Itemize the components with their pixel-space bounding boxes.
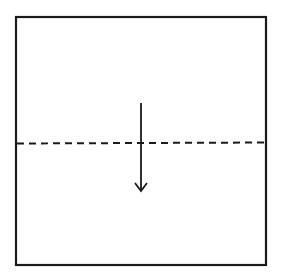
fold-direction-arrow-icon xyxy=(135,103,147,191)
fold-diagram xyxy=(0,0,292,274)
